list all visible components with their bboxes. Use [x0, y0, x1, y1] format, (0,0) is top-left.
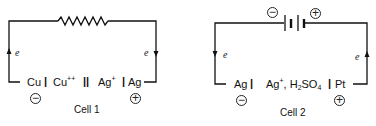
plus-circle-icon: + — [130, 93, 141, 104]
arrow-down-icon — [213, 51, 218, 57]
cell-caption: Cell 1 — [74, 105, 100, 115]
electron-label: e — [144, 48, 148, 58]
minus-circle-icon: − — [267, 7, 278, 18]
plus-circle-icon: + — [334, 95, 345, 106]
separator: | — [250, 78, 253, 89]
arrow-up-icon — [365, 51, 370, 57]
plus-circle-icon: + — [310, 8, 321, 19]
resistor-icon — [58, 17, 108, 25]
separator: | — [328, 78, 331, 89]
electron-label: e — [355, 52, 359, 62]
cell-caption: Cell 2 — [280, 108, 306, 118]
cell-2-wires — [215, 23, 367, 84]
cathode-label: Ag — [128, 77, 141, 88]
salt-bridge: || — [83, 76, 89, 87]
anode-label: Cu — [27, 77, 41, 88]
cathode-label: Pt — [335, 79, 345, 90]
cathode-electrolyte: Ag+ — [98, 77, 116, 88]
circuit-wiring — [0, 0, 376, 126]
separator: | — [122, 76, 125, 87]
minus-circle-icon: − — [30, 93, 41, 104]
minus-circle-icon: − — [236, 95, 247, 106]
anode-electrolyte: Cu++ — [53, 77, 75, 88]
cell-1-wires — [9, 17, 156, 82]
arrow-up-icon — [7, 48, 12, 54]
electron-label: e — [223, 50, 227, 60]
electron-label: e — [15, 48, 19, 58]
separator: | — [44, 76, 47, 87]
electrolyte-label: Ag+, H2SO4 — [266, 79, 321, 90]
battery-icon — [285, 15, 304, 31]
arrow-down-icon — [154, 51, 159, 57]
anode-label: Ag — [234, 79, 247, 90]
